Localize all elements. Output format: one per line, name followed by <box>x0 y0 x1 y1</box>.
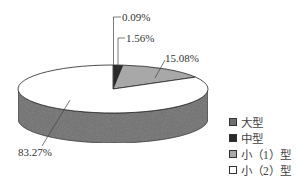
legend-label: 小（2）型 <box>241 162 291 178</box>
legend-item-small-1: 小（1）型 <box>229 146 291 162</box>
label-small-2: 83.27% <box>18 146 52 158</box>
label-medium: 1.56% <box>126 32 154 44</box>
legend-item-large: 大型 <box>229 114 291 130</box>
label-small-1: 15.08% <box>165 52 199 64</box>
pie-top <box>18 65 208 113</box>
legend-swatch-medium <box>229 134 237 142</box>
legend-label: 大型 <box>241 114 263 130</box>
legend-swatch-small-1 <box>229 150 237 158</box>
label-large: 0.09% <box>122 11 150 23</box>
legend-label: 中型 <box>241 130 263 146</box>
legend-item-medium: 中型 <box>229 130 291 146</box>
legend: 大型 中型 小（1）型 小（2）型 <box>229 114 291 178</box>
legend-swatch-large <box>229 118 237 126</box>
legend-swatch-small-2 <box>229 166 237 174</box>
legend-item-small-2: 小（2）型 <box>229 162 291 178</box>
legend-label: 小（1）型 <box>241 146 291 162</box>
